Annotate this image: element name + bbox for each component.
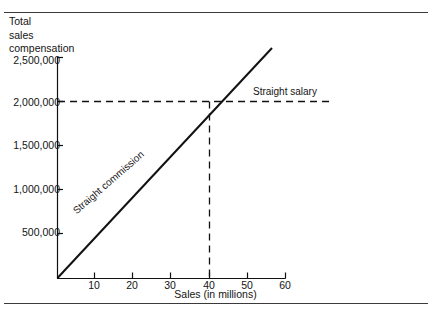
x-tick-marks xyxy=(95,273,286,279)
annotation-straight-salary: Straight salary xyxy=(253,86,317,97)
y-tick-marks xyxy=(58,58,64,234)
chart-figure: Total sales compensation 2,500,000 2,000… xyxy=(0,0,431,313)
series-straight-commission-line xyxy=(58,48,273,278)
chart-plot-area xyxy=(0,0,431,313)
